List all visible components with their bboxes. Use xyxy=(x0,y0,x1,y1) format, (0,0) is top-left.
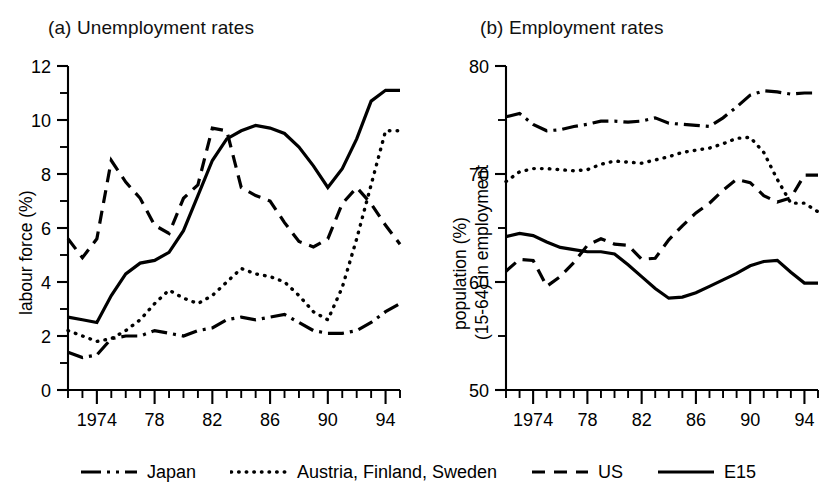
legend-line-swatch-dotted xyxy=(230,465,288,479)
panel-b-y-axis-label-line2: (15-64) in employment xyxy=(472,165,493,340)
y-tick-label: 6 xyxy=(41,219,51,239)
legend-line-swatch-dashed xyxy=(531,465,589,479)
x-tick-label: 1974 xyxy=(77,410,117,430)
legend-label: E15 xyxy=(724,463,756,481)
series-line-e15 xyxy=(68,90,400,322)
series-line-e15 xyxy=(506,233,818,298)
series-line-us xyxy=(506,175,818,286)
y-tick-label: 80 xyxy=(469,57,489,77)
figure-root: (a) Unemployment rates 02468101219747882… xyxy=(0,0,836,500)
legend-item-us[interactable]: US xyxy=(531,463,623,481)
legend-label: Japan xyxy=(147,463,196,481)
y-tick-label: 2 xyxy=(41,327,51,347)
legend-label: US xyxy=(598,463,623,481)
series-line-japan xyxy=(506,91,818,131)
series-line-us xyxy=(68,128,400,258)
legend-line-swatch-solid xyxy=(657,465,715,479)
legend-item-austria-finland-sweden[interactable]: Austria, Finland, Sweden xyxy=(230,463,497,481)
x-tick-label: 86 xyxy=(260,410,280,430)
series-line-austria-finland-sweden xyxy=(506,137,818,212)
x-tick-label: 90 xyxy=(740,410,760,430)
y-tick-label: 10 xyxy=(31,111,51,131)
panel-b-y-axis-label-line1: population (%) xyxy=(450,217,471,330)
legend-item-japan[interactable]: Japan xyxy=(80,463,196,481)
x-tick-label: 82 xyxy=(202,410,222,430)
x-tick-label: 82 xyxy=(632,410,652,430)
legend-line-swatch-dashdot xyxy=(80,465,138,479)
panel-a-y-axis-label: labour force (%) xyxy=(16,191,37,316)
y-tick-label: 12 xyxy=(31,57,51,77)
x-tick-label: 94 xyxy=(794,410,814,430)
y-tick-label: 0 xyxy=(41,381,51,401)
chart-legend: JapanAustria, Finland, SwedenUSE15 xyxy=(0,452,836,492)
legend-label: Austria, Finland, Sweden xyxy=(297,463,497,481)
unemployment-plot: 02468101219747882869094 xyxy=(0,0,418,440)
x-tick-label: 1974 xyxy=(513,410,553,430)
legend-item-e15[interactable]: E15 xyxy=(657,463,756,481)
x-tick-label: 86 xyxy=(686,410,706,430)
x-tick-label: 78 xyxy=(577,410,597,430)
x-tick-label: 78 xyxy=(145,410,165,430)
y-tick-label: 4 xyxy=(41,273,51,293)
y-tick-label: 8 xyxy=(41,165,51,185)
y-tick-label: 50 xyxy=(469,381,489,401)
series-line-japan xyxy=(68,304,400,358)
x-tick-label: 94 xyxy=(376,410,396,430)
chart-panel-unemployment: (a) Unemployment rates 02468101219747882… xyxy=(0,0,418,440)
x-tick-label: 90 xyxy=(318,410,338,430)
